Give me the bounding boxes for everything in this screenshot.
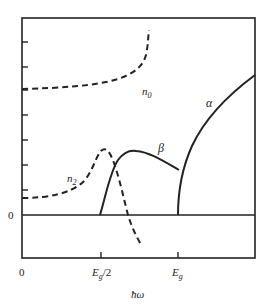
- x-tick-label-zero: 0: [19, 266, 25, 278]
- curve-alpha: [178, 75, 255, 215]
- x-tick-label-gap: Eg: [171, 266, 183, 281]
- curve-n0: [22, 30, 149, 89]
- label-n2: n2: [67, 172, 77, 187]
- plot-frame: [22, 18, 255, 258]
- y-axis-ticks: [22, 42, 28, 190]
- figure-canvas: n0 n2 β α 0 0 Eg/2 Eg ħω: [0, 0, 267, 305]
- label-alpha: α: [206, 96, 213, 110]
- y-zero-label: 0: [8, 209, 14, 221]
- curve-beta: [100, 151, 179, 215]
- curve-n2: [22, 149, 142, 246]
- label-n0: n0: [142, 85, 152, 100]
- x-axis-ticks: [101, 252, 178, 258]
- x-axis-label: ħω: [131, 288, 145, 300]
- label-beta: β: [157, 141, 164, 155]
- x-tick-label-half-gap: Eg/2: [91, 266, 111, 281]
